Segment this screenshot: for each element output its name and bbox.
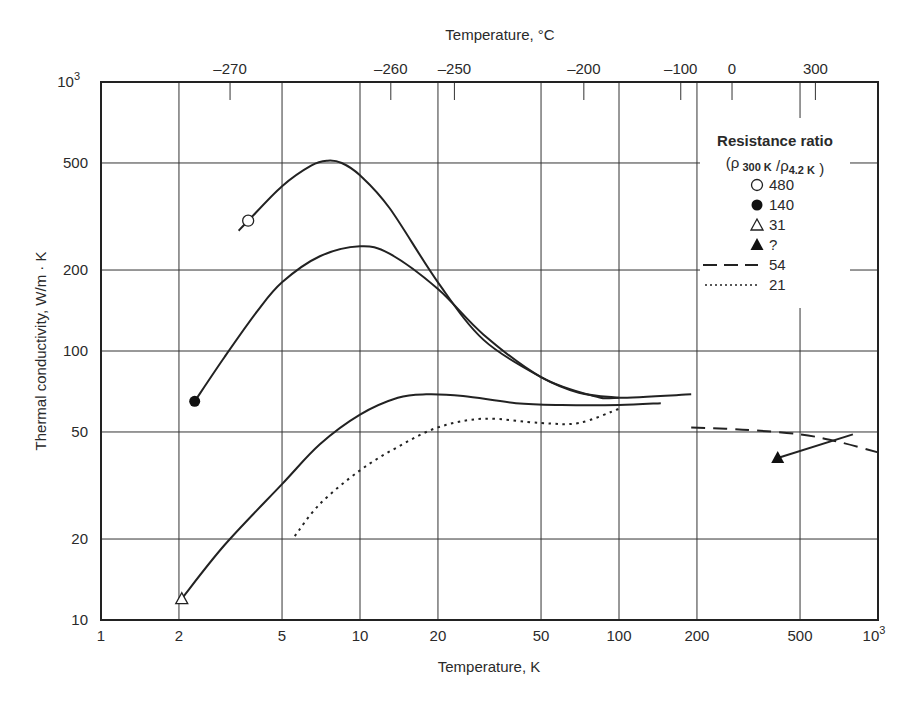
celsius-tick-label: –260 [374,60,407,77]
top-axis-title: Temperature, °C [445,26,555,43]
y-tick-label: 20 [71,530,88,547]
series-unknown-line [778,434,853,458]
y-tick-label: 10 [71,611,88,628]
legend-label: 21 [769,276,786,293]
x-tick-label: 1 [97,627,105,644]
celsius-top-ticks [230,82,815,100]
celsius-tick-label: –100 [664,60,697,77]
x-tick-labels: 125102050100200500103 [97,624,886,644]
series-21-curve [295,409,619,536]
x-axis-title: Temperature, K [438,658,541,675]
y-tick-label: 50 [71,423,88,440]
x-tick-label: 2 [175,627,183,644]
y-tick-labels: 102050100200500103 [57,70,88,628]
celsius-tick-label: –270 [213,60,246,77]
x-tick-label: 100 [606,627,631,644]
celsius-tick-label: 300 [803,60,828,77]
x-tick-label: 5 [278,627,286,644]
celsius-tick-label: 0 [728,60,736,77]
legend-marker-filled-circle [752,200,763,211]
celsius-tick-label: –250 [438,60,471,77]
legend-label: 54 [769,256,786,273]
series-140-marker [189,396,200,407]
legend-title: Resistance ratio [717,132,833,149]
x-tick-label: 200 [684,627,709,644]
celsius-tick-label: –200 [567,60,600,77]
series-54-curve [691,427,878,452]
series-31-curve [182,394,661,598]
y-axis-title: Thermal conductivity, W/m · K [32,252,49,451]
y-tick-label: 200 [63,261,88,278]
y-tick-label: 500 [63,154,88,171]
series-480-marker [243,215,254,226]
x-tick-label: 500 [788,627,813,644]
legend-label: ? [769,236,777,253]
x-tick-label: 103 [863,624,886,644]
y-tick-label: 103 [57,70,80,90]
y-tick-label: 100 [63,342,88,359]
legend-label: 31 [769,216,786,233]
celsius-tick-labels: –270–260–250–200–1000300 [213,60,828,77]
series-140-curve [195,246,692,401]
legend-label: 140 [769,196,794,213]
legend-label: 480 [769,176,794,193]
x-tick-label: 20 [430,627,447,644]
legend-marker-open-circle [752,180,763,191]
thermal-conductivity-chart: 125102050100200500103 102050100200500103… [0,0,917,707]
series-480-curve [239,161,619,398]
x-tick-label: 50 [533,627,550,644]
x-tick-label: 10 [352,627,369,644]
